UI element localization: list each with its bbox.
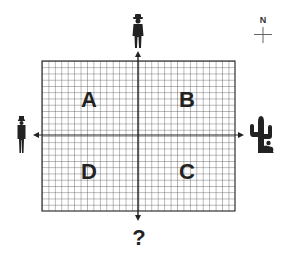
quadrant-label-a: A — [81, 89, 97, 111]
arrow-left-icon — [33, 132, 39, 138]
question-mark-label: ? — [132, 227, 145, 249]
coordinate-grid-diagram — [0, 0, 290, 262]
arrow-up-icon — [135, 51, 141, 57]
person-in-hat-figure-icon — [18, 116, 26, 153]
cowboy-figure-icon — [133, 14, 144, 48]
cactus-with-crouching-figure-icon — [250, 116, 274, 153]
arrow-down-icon — [135, 215, 141, 221]
quadrant-label-d: D — [81, 161, 97, 183]
quadrant-label-c: C — [179, 161, 195, 183]
compass-icon — [254, 27, 272, 43]
quadrant-label-b: B — [179, 89, 195, 111]
compass-north-label: N — [260, 16, 267, 25]
arrow-right-icon — [238, 132, 244, 138]
